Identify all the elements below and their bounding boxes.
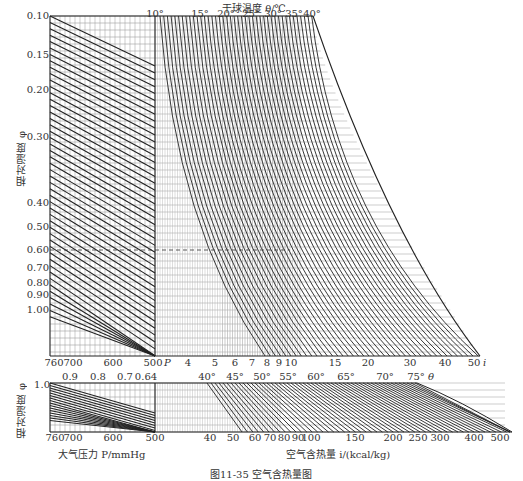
main-bottom-tick: 20 — [362, 358, 375, 368]
top-axis-tick: 15° — [191, 9, 209, 19]
left-axis-tick: 0.30 — [27, 132, 49, 142]
main-bottom-tick: 700 — [63, 358, 82, 368]
left-axis-tick: 0.40 — [27, 198, 49, 208]
figure-caption: 图11-35 空气含热量图 — [210, 466, 312, 481]
top-axis-tick: 25° — [242, 9, 260, 19]
lower-bottom-tick: 500 — [145, 433, 164, 443]
pressure-axis-label: 大气压力 P/mmHg — [58, 446, 145, 461]
top-axis-tick: 20° — [217, 9, 235, 19]
main-bottom-tick: 9 — [276, 358, 282, 368]
lower-bottom-tick: 700 — [63, 433, 82, 443]
lower-top-tick: 45° — [226, 372, 244, 382]
lower-bottom-tick: 150 — [345, 433, 364, 443]
lower-top-tick: 70° — [376, 372, 394, 382]
main-bottom-tick: 6 — [232, 358, 238, 368]
lower-top-tick: 50° — [253, 372, 271, 382]
enthalpy-symbol: i — [483, 358, 486, 368]
lower-top-tick: 0.7 — [117, 372, 133, 382]
top-axis-tick: 30° — [264, 9, 282, 19]
main-bottom-tick: 500 — [143, 358, 162, 368]
lower-left-tick: 1.0 — [34, 380, 50, 390]
lower-top-tick: 60° — [307, 372, 325, 382]
lower-top-tick: 40° — [198, 372, 216, 382]
left-axis-tick: 0.15 — [27, 50, 49, 60]
main-bottom-tick: 5 — [212, 358, 218, 368]
main-bottom-tick: 760 — [44, 358, 63, 368]
lower-bottom-tick: 250 — [408, 433, 427, 443]
lower-top-tick: 65° — [337, 372, 355, 382]
lower-top-tick: 0.8 — [90, 372, 106, 382]
top-axis-tick: 10° — [146, 9, 164, 19]
lower-bottom-tick: 760 — [45, 433, 64, 443]
main-bottom-tick: 50 — [468, 358, 481, 368]
lower-bottom-tick: 50 — [227, 433, 240, 443]
lower-bottom-tick: 100 — [301, 433, 320, 443]
main-bottom-tick: 40 — [439, 358, 452, 368]
main-bottom-tick: 15 — [329, 358, 342, 368]
lower-bottom-tick: 70 — [264, 433, 277, 443]
lower-left-axis-title: 相对湿度 φ — [14, 382, 29, 438]
main-bottom-tick: 7 — [249, 358, 255, 368]
main-bottom-tick: 4 — [185, 358, 191, 368]
left-axis-tick: 0.60 — [27, 245, 49, 255]
lower-bottom-tick: 500 — [490, 433, 509, 443]
lower-top-tick: 0.9 — [62, 372, 78, 382]
left-axis-tick: 0.80 — [27, 278, 49, 288]
left-axis-tick: 0.50 — [27, 222, 49, 232]
lower-bottom-tick: 300 — [430, 433, 449, 443]
lower-top-tick: 0.64 — [135, 372, 157, 382]
main-bottom-tick: 10 — [285, 358, 298, 368]
top-axis-tick: 40° — [303, 9, 321, 19]
left-axis-tick: 0.90 — [27, 290, 49, 300]
top-axis-tick: 35° — [285, 9, 303, 19]
lower-bottom-tick: 80 — [278, 433, 291, 443]
left-axis-tick: 0.10 — [27, 11, 49, 21]
main-bottom-tick: 8 — [264, 358, 270, 368]
enthalpy-axis-label: 空气含热量 i/(kcal/kg) — [286, 446, 390, 461]
lower-bottom-tick: 400 — [464, 433, 483, 443]
pressure-symbol: P — [164, 358, 171, 368]
lower-bottom-tick: 200 — [383, 433, 402, 443]
main-bottom-tick: 600 — [103, 358, 122, 368]
theta-symbol: θ — [428, 372, 434, 382]
lower-bottom-tick: 600 — [103, 433, 122, 443]
left-axis-tick: 0.70 — [27, 263, 49, 273]
lower-bottom-tick: 40 — [204, 433, 217, 443]
lower-top-tick: 55° — [279, 372, 297, 382]
lower-bottom-tick: 60 — [249, 433, 262, 443]
main-bottom-tick: 30 — [404, 358, 417, 368]
lower-top-tick: 75° — [407, 372, 425, 382]
left-axis-tick: 1.00 — [27, 305, 49, 315]
left-axis-tick: 0.20 — [27, 85, 49, 95]
